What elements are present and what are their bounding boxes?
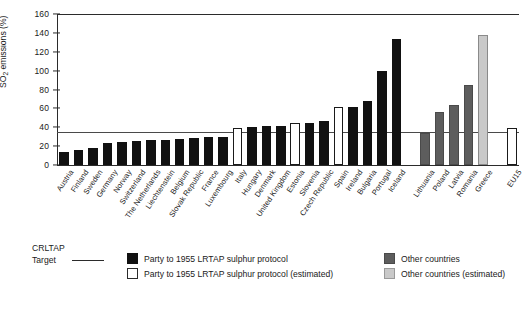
bar-finland xyxy=(74,150,84,165)
legend-label-black: Party to 1955 LRTAP sulphur protocol xyxy=(144,254,288,264)
bar-hungary xyxy=(247,127,257,165)
bar-eu15 xyxy=(507,128,517,165)
y-tick-label-80: 80 xyxy=(39,85,49,95)
bar-the-netherlands xyxy=(146,140,156,165)
legend-label-grey-estimated: Other countries (estimated) xyxy=(401,269,505,279)
y-axis-title-main: SO xyxy=(0,76,8,88)
y-tick-label-0: 0 xyxy=(44,160,49,170)
legend-target-line-sample xyxy=(72,260,104,261)
y-tick-label-160: 160 xyxy=(35,9,49,19)
legend-target-line2: Target xyxy=(32,255,65,267)
bar-austria xyxy=(59,152,69,165)
bar-denmark xyxy=(262,126,272,165)
bar-iceland xyxy=(392,39,402,165)
bar-portugal xyxy=(377,71,387,165)
y-tick-label-60: 60 xyxy=(39,103,49,113)
legend-item-black-estimated: Party to 1955 LRTAP sulphur protocol (es… xyxy=(127,267,333,280)
legend-swatch-grey xyxy=(384,253,395,264)
bar-poland xyxy=(435,112,445,165)
legend-column-right: Other countries Other countries (estimat… xyxy=(384,252,505,282)
bar-united-kingdom xyxy=(276,126,286,165)
y-tick-label-20: 20 xyxy=(39,141,49,151)
bar-italy xyxy=(233,128,243,165)
bar-norway xyxy=(117,142,127,165)
x-axis-line xyxy=(57,165,519,166)
legend-column-left: Party to 1955 LRTAP sulphur protocol Par… xyxy=(127,252,333,282)
legend-target-block: CRLTAP Target xyxy=(32,243,65,266)
y-tick-label-40: 40 xyxy=(39,122,49,132)
legend-item-grey-estimated: Other countries (estimated) xyxy=(384,267,505,280)
bar-spain xyxy=(334,107,344,165)
y-tick-label-140: 140 xyxy=(35,28,49,38)
y-tick-label-120: 120 xyxy=(35,47,49,57)
bar-germany xyxy=(103,143,113,165)
bar-belgium xyxy=(175,139,185,165)
bar-lithuania xyxy=(420,133,430,165)
legend-swatch-black-estimated xyxy=(127,268,138,279)
legend-label-black-estimated: Party to 1955 LRTAP sulphur protocol (es… xyxy=(144,269,333,279)
y-axis-title: SO2 emissions (%) xyxy=(0,16,8,88)
legend-label-grey: Other countries xyxy=(401,254,460,264)
legend-target-line1: CRLTAP xyxy=(32,243,65,255)
bar-estonia xyxy=(290,123,300,165)
y-tick-label-100: 100 xyxy=(35,66,49,76)
legend-swatch-black xyxy=(127,253,138,264)
bar-czech-republic xyxy=(319,121,329,165)
legend-item-black: Party to 1955 LRTAP sulphur protocol xyxy=(127,252,333,265)
y-axis-title-rest: emissions (%) xyxy=(0,16,8,72)
bar-luxembourg xyxy=(218,137,228,165)
legend-item-grey: Other countries xyxy=(384,252,505,265)
y-axis-title-subscript: 2 xyxy=(2,72,9,76)
x-axis-labels: AustriaFinlandSwedenGermanyNorwaySwitzer… xyxy=(57,168,519,230)
chart-legend: CRLTAP Target Party to 1955 LRTAP sulphu… xyxy=(14,243,514,283)
bar-greece xyxy=(478,35,488,165)
bar-sweden xyxy=(88,148,98,165)
bar-bulgaria xyxy=(363,101,373,165)
bar-slovenia xyxy=(305,123,315,165)
so2-emissions-bar-chart: SO2 emissions (%) 020406080100120140160 … xyxy=(0,0,524,318)
bar-liechtenstein xyxy=(161,140,171,165)
bar-ireland xyxy=(348,107,358,165)
bar-latvia xyxy=(449,105,459,165)
bar-switzerland xyxy=(132,141,142,165)
bar-slovak-republic xyxy=(189,138,199,165)
bars-container xyxy=(57,14,519,165)
bar-france xyxy=(204,137,214,165)
bar-romania xyxy=(464,85,474,165)
legend-swatch-grey-estimated xyxy=(384,268,395,279)
